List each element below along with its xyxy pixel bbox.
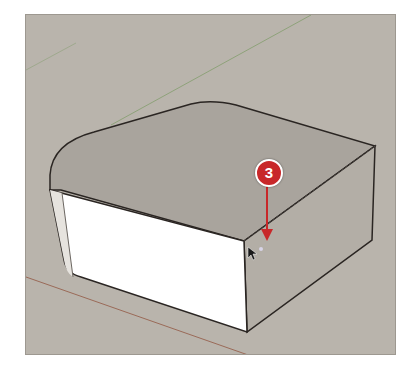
scene-canvas [26,15,396,355]
step-callout-badge: 3 [255,159,283,187]
inference-point-icon [259,247,263,251]
green-axis-line-lower [26,43,76,70]
modeling-viewport[interactable]: 3 [25,14,396,355]
